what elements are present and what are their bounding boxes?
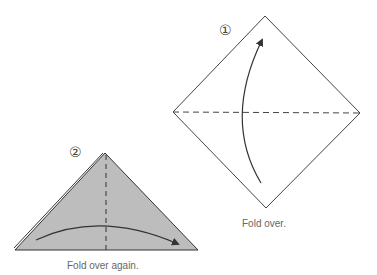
- origami-diagram: [0, 0, 377, 275]
- step2-triangle: [14, 153, 198, 250]
- step1-number: ①: [219, 22, 232, 38]
- step1-caption: Fold over.: [242, 218, 286, 229]
- step2-caption: Fold over again.: [67, 260, 139, 271]
- step1-diamond: [173, 16, 360, 208]
- step2-number: ②: [69, 144, 82, 160]
